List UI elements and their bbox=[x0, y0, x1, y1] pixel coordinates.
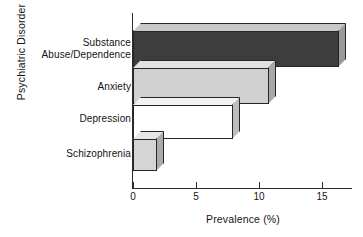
x-axis-line bbox=[132, 188, 352, 189]
category-label-line1: Anxiety bbox=[98, 81, 132, 92]
x-axis-tick-label-0: 0 bbox=[118, 191, 148, 202]
y-axis-title: Psychiatric Disorder bbox=[15, 0, 27, 127]
x-axis-tick-label-10: 10 bbox=[244, 191, 274, 202]
x-axis-title: Prevalence (%) bbox=[133, 213, 353, 225]
bar-chart-figure: Psychiatric Disorder Substance Abuse/Dep… bbox=[0, 0, 363, 237]
category-label-line2: Abuse/Dependence bbox=[42, 49, 131, 61]
bar-top-face bbox=[133, 97, 240, 105]
x-axis-tick-15 bbox=[322, 182, 323, 189]
category-label-line1: Schizophrenia bbox=[66, 148, 131, 159]
bar-top-face bbox=[133, 60, 276, 68]
category-label-anxiety: Anxiety bbox=[98, 81, 132, 93]
x-axis-tick-label-5: 5 bbox=[181, 191, 211, 202]
category-label-substance-abuse-dependence: Substance Abuse/Dependence bbox=[42, 37, 131, 60]
y-axis-line bbox=[132, 13, 133, 189]
bar-top-face bbox=[133, 23, 346, 31]
category-label-line1: Depression bbox=[79, 113, 131, 124]
x-axis-tick-0 bbox=[133, 182, 134, 189]
bar-front-face bbox=[133, 139, 157, 171]
x-axis-tick-5 bbox=[196, 182, 197, 189]
x-axis-tick-10 bbox=[259, 182, 260, 189]
category-label-schizophrenia: Schizophrenia bbox=[66, 148, 131, 160]
x-axis-tick-label-15: 15 bbox=[307, 191, 337, 202]
category-label-line1: Substance bbox=[83, 37, 131, 48]
category-label-depression: Depression bbox=[79, 113, 131, 125]
